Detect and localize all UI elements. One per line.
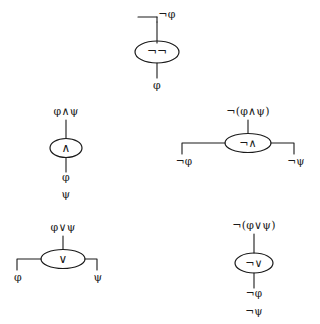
disjunction-left-input-wire — [17, 259, 41, 270]
nor-gate-symbol: ¬∨ — [245, 257, 262, 270]
nor-input-label-2: ¬ψ — [245, 306, 262, 317]
negation-input-label: φ — [153, 80, 161, 91]
nand-right-input-wire — [271, 143, 294, 154]
nand-gate-symbol: ¬∧ — [239, 137, 256, 150]
negation-diagram: ¬φ ¬¬ φ — [0, 0, 320, 100]
nor-output-label: ¬(φ∨ψ) — [232, 220, 275, 231]
nand-output-label: ¬(φ∧ψ) — [226, 106, 269, 117]
nor-diagram: ¬(φ∨ψ) ¬∨ ¬φ ¬ψ — [160, 212, 320, 324]
conjunction-diagram: φ∧ψ ∧ φ ψ — [0, 100, 160, 212]
conjunction-output-label: φ∧ψ — [54, 106, 79, 117]
disjunction-input-label-1: φ — [14, 272, 22, 283]
nand-input-label-2: ¬ψ — [287, 156, 304, 167]
disjunction-right-input-wire — [85, 259, 97, 270]
disjunction-gate-svg: ∨ — [0, 212, 160, 324]
conjunction-gate-symbol: ∧ — [62, 141, 71, 155]
negation-output-label: ¬φ — [158, 9, 175, 20]
conjunction-input-label-1: φ — [62, 172, 70, 183]
nor-input-label-1: ¬φ — [246, 288, 263, 299]
conjunction-gate-svg: ∧ — [0, 100, 160, 212]
disjunction-gate-symbol: ∨ — [59, 252, 68, 266]
disjunction-output-label: φ∨ψ — [51, 222, 76, 233]
disjunction-diagram: φ∨ψ ∨ φ ψ — [0, 212, 160, 324]
nand-left-input-wire — [182, 143, 225, 154]
nand-input-label-1: ¬φ — [176, 156, 193, 167]
nand-diagram: ¬(φ∧ψ) ¬∧ ¬φ ¬ψ — [160, 100, 320, 212]
negation-gate-symbol: ¬¬ — [147, 45, 167, 59]
conjunction-input-label-2: ψ — [62, 189, 71, 200]
disjunction-input-label-2: ψ — [94, 272, 103, 283]
